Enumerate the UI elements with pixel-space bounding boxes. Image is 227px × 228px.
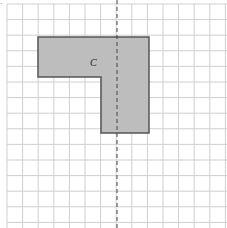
grid-diagram: C · (0, 0, 227, 228)
shape-c (38, 37, 149, 133)
shape-label: C (90, 57, 97, 68)
corner-mark: · (0, 0, 3, 8)
